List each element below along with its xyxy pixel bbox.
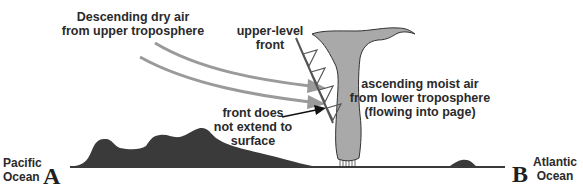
upper-front-label-line2: front — [230, 38, 310, 52]
pacific-ocean-label: Pacific Ocean — [3, 156, 42, 184]
descending-air-label-line2: from upper troposphere — [48, 24, 218, 38]
point-b-label: B — [512, 162, 528, 186]
point-a-label: A — [43, 164, 60, 188]
eastern-hill — [447, 160, 482, 167]
descending-air-label-line1: Descending dry air — [48, 10, 218, 24]
ascending-air-label-line2: from lower troposphere — [335, 91, 505, 105]
front-surface-label-line1: front does — [208, 106, 298, 120]
front-surface-label-line2: not extend to — [208, 120, 298, 134]
atlantic-label-line2: Ocean — [533, 169, 577, 183]
descending-air-label: Descending dry air from upper tropospher… — [48, 10, 218, 38]
pacific-label-line1: Pacific — [3, 156, 42, 170]
pointer-arrowhead — [314, 105, 326, 115]
atlantic-ocean-label: Atlantic Ocean — [533, 155, 577, 183]
front-surface-label-line3: surface — [208, 134, 298, 148]
ascending-air-label-line1: ascending moist air — [335, 77, 505, 91]
upper-level-front-label: upper-level front — [230, 24, 310, 52]
ascending-air-label: ascending moist air from lower troposphe… — [335, 77, 505, 119]
upper-front-label-line1: upper-level — [230, 24, 310, 38]
front-surface-label: front does not extend to surface — [208, 106, 298, 148]
atlantic-label-line1: Atlantic — [533, 155, 577, 169]
descending-air-arrow-2 — [140, 57, 310, 102]
pacific-label-line2: Ocean — [3, 170, 42, 184]
ascending-air-label-line3: (flowing into page) — [335, 105, 505, 119]
